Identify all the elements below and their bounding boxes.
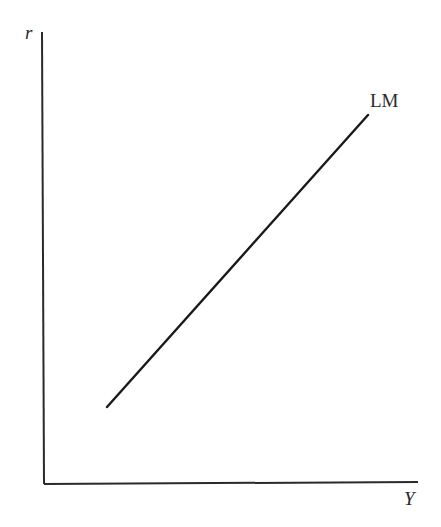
- lm-curve: [107, 115, 368, 407]
- lm-curve-chart: r Y LM: [0, 0, 441, 527]
- lm-curve-label: LM: [370, 90, 399, 111]
- y-axis-label: r: [25, 22, 33, 43]
- y-axis: [42, 32, 44, 484]
- x-axis: [44, 482, 418, 484]
- x-axis-label: Y: [404, 488, 417, 509]
